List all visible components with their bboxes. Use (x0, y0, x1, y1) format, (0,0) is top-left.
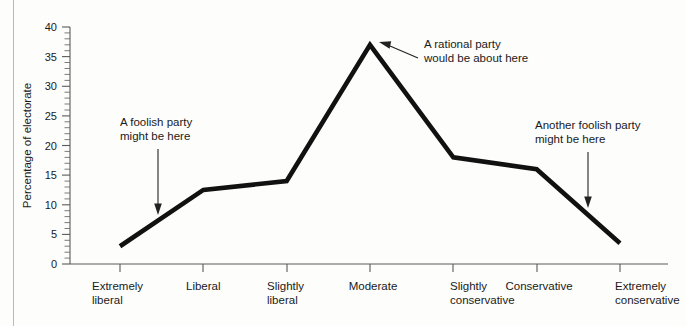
y-tick-label-40: 40 (45, 21, 57, 33)
x-label-conservative-line1: Conservative (505, 280, 572, 292)
y-tick-label-25: 25 (45, 110, 57, 122)
annotation-foolish-left-line1: A foolish party (120, 116, 192, 128)
y-tick-label-0: 0 (51, 258, 57, 270)
figure-page: 0 5 10 15 20 25 30 35 40 Percentage of e… (0, 0, 686, 326)
y-axis-title: Percentage of electorate (21, 83, 33, 208)
x-label-moderate-line1: Moderate (349, 280, 398, 292)
data-series-line (120, 45, 620, 246)
annotation-foolish-right-line2: might be here (535, 133, 605, 145)
x-label-slightly-conservative-line1: Slightly (450, 280, 487, 292)
x-label-slightly-liberal-line2: liberal (267, 294, 298, 306)
annotation-rational-line2: would be about here (423, 52, 528, 64)
annotation-rational-arrow-head (379, 41, 391, 49)
annotation-foolish-right: Another foolish party might be here (535, 119, 641, 208)
annotation-foolish-right-line1: Another foolish party (535, 119, 641, 131)
annotation-foolish-left-line2: might be here (120, 130, 190, 142)
x-label-slightly-liberal-line1: Slightly (267, 280, 304, 292)
x-label-slightly-conservative-line2: conservative (450, 294, 515, 306)
x-label-extremely-conservative-line2: conservative (615, 294, 680, 306)
y-tick-label-15: 15 (45, 169, 57, 181)
annotation-foolish-left: A foolish party might be here (120, 116, 192, 215)
annotation-foolish-right-arrow-head (584, 197, 592, 209)
y-tick-label-30: 30 (45, 80, 57, 92)
y-tick-label-20: 20 (45, 140, 57, 152)
x-label-liberal-line1: Liberal (186, 280, 221, 292)
x-axis-ticks (120, 264, 620, 272)
line-chart: 0 5 10 15 20 25 30 35 40 Percentage of e… (0, 0, 686, 326)
annotation-rational-line1: A rational party (424, 38, 501, 50)
annotation-rational-arrow-shaft (390, 46, 418, 58)
annotation-foolish-left-arrow-head (154, 204, 162, 216)
annotation-rational: A rational party would be about here (379, 38, 528, 64)
y-tick-label-5: 5 (51, 228, 57, 240)
x-label-extremely-liberal-line2: liberal (92, 294, 123, 306)
y-tick-label-10: 10 (45, 199, 57, 211)
x-label-extremely-liberal-line1: Extremely (92, 280, 143, 292)
x-label-extremely-conservative-line1: Extremely (615, 280, 666, 292)
y-tick-label-35: 35 (45, 51, 57, 63)
